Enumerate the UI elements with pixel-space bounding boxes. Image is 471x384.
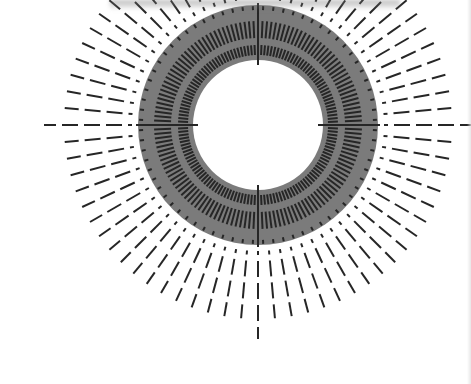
ray-dash bbox=[67, 156, 81, 158]
inner-dash bbox=[267, 194, 268, 204]
ray-dash bbox=[111, 160, 126, 164]
ray-dash bbox=[100, 192, 115, 199]
edge-tick bbox=[148, 169, 152, 171]
ray-dash bbox=[166, 214, 169, 217]
edge-tick bbox=[370, 150, 374, 151]
ray-dash bbox=[325, 268, 332, 283]
ray-dash bbox=[82, 201, 95, 207]
ray-dash bbox=[392, 149, 408, 152]
edge-tick bbox=[302, 15, 304, 19]
ray-dash bbox=[183, 19, 185, 22]
ray-dash bbox=[414, 95, 430, 98]
ray-dash bbox=[427, 59, 440, 64]
ray-dash bbox=[192, 294, 197, 307]
ray-dash bbox=[374, 263, 383, 274]
ray-dash bbox=[224, 247, 225, 251]
ray-dash bbox=[301, 243, 302, 247]
ray-dash bbox=[386, 73, 401, 78]
ray-dash bbox=[160, 229, 170, 241]
edge-tick bbox=[370, 99, 374, 100]
ray-dash bbox=[135, 237, 146, 248]
center-hole bbox=[193, 60, 323, 190]
edge-tick bbox=[372, 109, 376, 110]
ray-dash bbox=[401, 51, 416, 58]
ray-dash bbox=[315, 248, 322, 263]
ray-dash bbox=[140, 70, 144, 72]
ray-dash bbox=[395, 38, 409, 46]
inner-dash bbox=[178, 131, 188, 132]
ray-dash bbox=[140, 178, 144, 180]
ray-dash bbox=[152, 50, 155, 52]
edge-tick bbox=[242, 239, 243, 243]
inner-dash bbox=[248, 46, 249, 56]
ray-dash bbox=[90, 80, 105, 84]
ray-dash bbox=[121, 252, 131, 262]
ray-dash bbox=[379, 13, 391, 23]
ray-dash bbox=[182, 243, 190, 257]
ray-dash bbox=[108, 149, 124, 152]
ray-dash bbox=[71, 172, 85, 176]
ray-dash bbox=[421, 201, 434, 207]
inner-dash bbox=[328, 131, 338, 132]
ray-dash bbox=[166, 33, 169, 36]
ray-dash bbox=[305, 253, 310, 268]
ray-dash bbox=[362, 27, 374, 37]
ray-dash bbox=[376, 168, 380, 169]
ray-dash bbox=[381, 61, 396, 68]
ray-dash bbox=[214, 243, 215, 247]
ray-dash bbox=[347, 214, 350, 217]
ray-dash bbox=[334, 288, 340, 301]
ray-dash bbox=[282, 259, 285, 275]
edge-tick bbox=[145, 160, 149, 161]
ray-dash bbox=[108, 99, 124, 102]
edge-tick bbox=[364, 79, 368, 81]
ray-dash bbox=[158, 206, 161, 209]
ray-dash bbox=[224, 302, 226, 316]
ray-dash bbox=[395, 204, 409, 212]
ray-dash bbox=[355, 206, 358, 209]
ray-dash bbox=[345, 9, 355, 21]
ray-dash bbox=[158, 41, 161, 44]
ray-dash bbox=[372, 70, 376, 72]
ray-dash bbox=[293, 256, 297, 271]
ray-dash bbox=[406, 179, 421, 184]
ray-dash bbox=[414, 215, 426, 222]
inner-dash bbox=[251, 195, 252, 205]
ray-dash bbox=[367, 60, 370, 62]
edge-tick bbox=[222, 235, 223, 239]
edge-tick bbox=[232, 237, 233, 241]
ray-dash bbox=[330, 228, 332, 231]
ray-dash bbox=[90, 28, 102, 35]
ray-dash bbox=[321, 12, 323, 15]
ray-dash bbox=[67, 91, 81, 93]
ray-dash bbox=[171, 262, 179, 276]
ray-dash bbox=[171, 236, 180, 249]
ray-dash bbox=[320, 294, 325, 307]
ray-dash bbox=[151, 18, 162, 29]
ray-dash bbox=[120, 61, 135, 68]
ray-dash bbox=[369, 203, 382, 212]
ray-dash bbox=[401, 192, 416, 199]
ray-dash bbox=[142, 212, 154, 222]
ray-dash bbox=[194, 248, 201, 263]
ray-dash bbox=[100, 51, 115, 58]
ray-dash bbox=[219, 256, 223, 271]
ray-dash bbox=[289, 302, 291, 316]
edge-tick bbox=[212, 15, 214, 19]
ray-dash bbox=[421, 43, 434, 49]
ray-dash bbox=[291, 247, 292, 251]
ray-dash bbox=[272, 282, 273, 298]
inner-dash bbox=[253, 21, 254, 38]
ray-dash bbox=[145, 188, 148, 190]
ray-dash bbox=[437, 141, 451, 142]
ray-dash bbox=[161, 281, 168, 293]
ray-dash bbox=[355, 41, 358, 44]
ray-dash bbox=[415, 110, 431, 111]
ray-dash bbox=[213, 278, 217, 293]
ray-dash bbox=[65, 108, 79, 109]
top-blur-band bbox=[110, 0, 400, 10]
ray-dash bbox=[360, 246, 370, 258]
edge-tick bbox=[140, 140, 144, 141]
inner-dash bbox=[179, 115, 189, 116]
ray-dash bbox=[208, 299, 212, 313]
